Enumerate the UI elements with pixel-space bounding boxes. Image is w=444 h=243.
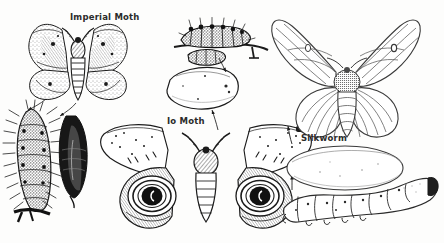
silkworm-moth-adult bbox=[272, 20, 421, 137]
imperial-moth-adult bbox=[29, 24, 127, 100]
io-moth-larva bbox=[174, 18, 268, 66]
illustration-artwork bbox=[0, 0, 444, 243]
io-moth-cocoon bbox=[167, 68, 238, 110]
label-imperial-moth: Imperial Moth bbox=[70, 13, 140, 22]
imperial-moth-pupa bbox=[59, 116, 87, 208]
imperial-moth-larva bbox=[3, 100, 63, 222]
io-moth-adult bbox=[101, 125, 312, 229]
label-silkworm: Silkworm bbox=[301, 134, 347, 143]
label-io-moth: Io Moth bbox=[167, 117, 205, 126]
illustration-plate: Imperial Moth Io Moth Silkworm bbox=[0, 0, 444, 243]
silkworm-cocoon bbox=[287, 146, 403, 190]
